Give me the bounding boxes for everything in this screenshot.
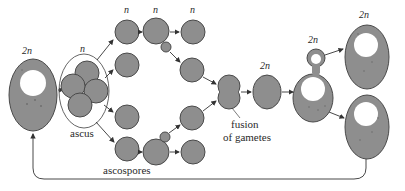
ascospores-label: ascospores	[103, 164, 151, 176]
ploidy-label-ascus: n	[80, 43, 85, 54]
ploidy-label-col1: n	[124, 4, 129, 15]
arrow-to-daughter-bottom	[329, 112, 344, 118]
fusion-label-line1: fusion	[231, 118, 259, 130]
budding-haploid-top	[143, 18, 171, 52]
ploidy-label-col3: n	[190, 4, 195, 15]
ploidy-label-budding: 2n	[308, 34, 318, 45]
haploid-cell-bottom	[181, 140, 205, 164]
arrow-fusion-upper	[203, 77, 216, 84]
ploidy-label-daughter: 2n	[359, 9, 369, 20]
fusing-gametes	[218, 75, 240, 109]
arrow-bud-top	[170, 52, 180, 62]
arrow-fusion-lower	[203, 101, 216, 111]
gamete-lower	[180, 106, 204, 130]
fusion-label-line2: of gametes	[223, 131, 271, 143]
haploid-cell-top	[181, 20, 205, 44]
ploidy-label-zygote: 2n	[260, 60, 270, 71]
budding-haploid-bottom	[143, 132, 170, 165]
gamete-upper	[180, 58, 204, 82]
yeast-life-cycle-diagram: 2n n ascus n ascospores n n	[0, 0, 405, 191]
arrow-bud-bottom	[169, 125, 180, 133]
budding-diploid	[293, 49, 333, 122]
diploid-daughter-bottom	[345, 95, 389, 159]
diploid-daughter-top	[345, 25, 389, 89]
ascus	[59, 54, 109, 128]
arrow-to-daughter-top	[325, 49, 343, 55]
zygote	[253, 75, 281, 109]
diploid-cell-start	[9, 59, 57, 131]
fusion-label-leader	[232, 108, 240, 118]
arrow-ascus-spore1	[97, 40, 113, 60]
ascus-label: ascus	[70, 127, 94, 139]
ploidy-label-col2: n	[153, 4, 158, 15]
arrow-ascus-spore4	[96, 122, 114, 142]
ascospores-column-1	[115, 20, 139, 161]
ploidy-label-start: 2n	[22, 45, 32, 56]
